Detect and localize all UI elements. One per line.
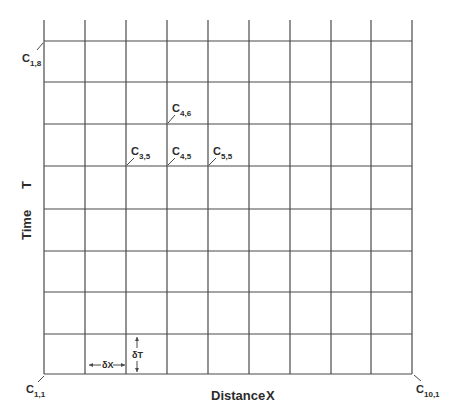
node-c-4-5: C 4,5	[168, 145, 192, 165]
node-subscript: 5,5	[221, 152, 233, 161]
node-subscript: 4,5	[180, 152, 192, 161]
finite-difference-grid-diagram: Distance X Time T C 1,8 C 4,6 C 3,5 C 4,…	[0, 0, 456, 417]
node-letter: C	[172, 145, 180, 157]
arrow-down-icon	[135, 368, 139, 372]
node-letter: C	[131, 145, 139, 157]
x-axis-label: Distance	[211, 388, 265, 403]
node-c-4-6: C 4,6	[168, 102, 192, 123]
node-c-1-1: C 1,1	[26, 376, 46, 399]
delta-t-indicator: δT	[132, 337, 143, 372]
node-letter: C	[172, 102, 180, 114]
node-c-3-5: C 3,5	[127, 145, 151, 165]
delta-x-indicator: δX	[89, 360, 125, 370]
arrow-up-icon	[135, 337, 139, 341]
delta-x-label: δX	[102, 360, 113, 370]
arrow-right-icon	[121, 363, 125, 367]
grid-lines	[44, 20, 412, 374]
node-subscript: 3,5	[139, 152, 151, 161]
node-subscript: 10,1	[424, 390, 440, 399]
node-c-5-5: C 5,5	[209, 145, 233, 165]
node-subscript: 4,6	[180, 109, 192, 118]
delta-t-label: δT	[132, 350, 143, 360]
node-letter: C	[416, 383, 424, 395]
y-axis-label: Time	[19, 210, 34, 240]
node-subscript: 1,1	[34, 390, 46, 399]
node-letter: C	[213, 145, 221, 157]
node-c-1-8: C 1,8	[22, 43, 43, 68]
node-letter: C	[26, 383, 34, 395]
node-letter: C	[22, 52, 30, 64]
arrow-left-icon	[89, 363, 93, 367]
node-subscript: 1,8	[30, 59, 42, 68]
node-c-10-1: C 10,1	[414, 375, 440, 399]
x-axis-symbol: X	[266, 388, 275, 403]
y-axis-symbol: T	[19, 181, 34, 189]
